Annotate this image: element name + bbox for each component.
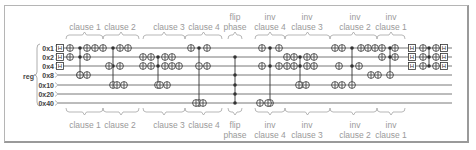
top-label-clause2: clause 2 — [104, 22, 136, 32]
qubit-label-0x8: 0x8 — [42, 72, 54, 79]
top-label-inv2: clause 2 — [339, 22, 371, 32]
top-label-clause1: clause 1 — [69, 22, 101, 32]
control-dot — [268, 64, 272, 68]
control-dot — [78, 55, 82, 59]
quantum-circuit-diagram: reg0x10x20x40x80x100x200x40clause 1claus… — [0, 0, 476, 150]
control-dot — [233, 92, 237, 96]
qubit-label-0x10: 0x10 — [38, 82, 54, 89]
control-dot — [156, 64, 160, 68]
bottom-label-inv3: clause 3 — [291, 130, 323, 140]
top-brace — [330, 32, 377, 39]
bottom-brace — [103, 108, 139, 115]
top-brace — [285, 32, 330, 39]
control-dot — [427, 64, 431, 68]
bottom-label-flip: phase — [223, 130, 246, 140]
qubit-label-0x40: 0x40 — [38, 100, 54, 107]
bottom-brace — [228, 108, 242, 115]
control-dot — [268, 46, 272, 50]
control-dot — [298, 64, 302, 68]
bottom-label-clause1: clause 1 — [69, 120, 101, 130]
qubit-input-marker — [55, 73, 58, 78]
control-dot — [298, 55, 302, 59]
top-label-inv4: clause 4 — [254, 22, 286, 32]
bottom-brace — [377, 108, 405, 115]
qubit-label-0x2: 0x2 — [42, 54, 54, 61]
top-label-flip: flip — [230, 12, 241, 22]
qubit-label-0x1: 0x1 — [42, 45, 54, 52]
bottom-label-inv1: inv — [386, 120, 398, 130]
qubit-input-marker — [55, 101, 58, 106]
bottom-label-flip: flip — [230, 120, 241, 130]
top-label-inv3: inv — [302, 12, 314, 22]
top-brace — [255, 32, 285, 39]
bottom-brace — [143, 108, 185, 115]
bottom-label-inv4: clause 4 — [254, 130, 286, 140]
top-label-inv1: inv — [386, 12, 398, 22]
hadamard-gate-label: H — [410, 54, 414, 60]
control-dot — [350, 64, 354, 68]
control-dot — [233, 55, 237, 59]
top-label-clause3: clause 3 — [153, 22, 185, 32]
qubit-input-marker — [55, 92, 58, 97]
register-label: reg — [23, 73, 34, 81]
hadamard-gate-label: H — [410, 63, 414, 69]
top-label-inv3: clause 3 — [291, 22, 323, 32]
qubit-label-0x20: 0x20 — [38, 91, 54, 98]
top-brace — [66, 32, 103, 39]
bottom-brace — [330, 108, 377, 115]
hadamard-gate-label: H — [58, 54, 62, 60]
top-brace — [143, 32, 185, 39]
top-label-inv2: inv — [350, 12, 362, 22]
bottom-label-inv1: clause 1 — [375, 130, 407, 140]
control-dot — [427, 46, 431, 50]
bottom-label-inv3: inv — [302, 120, 314, 130]
bottom-label-inv4: inv — [265, 120, 277, 130]
control-dot — [233, 83, 237, 87]
bottom-label-inv2: clause 2 — [339, 130, 371, 140]
top-label-inv4: inv — [265, 12, 277, 22]
control-dot — [78, 46, 82, 50]
bottom-brace — [185, 108, 222, 115]
bottom-brace — [255, 108, 285, 115]
hadamard-gate-label: H — [410, 45, 414, 51]
hadamard-gate-label: H — [58, 63, 62, 69]
top-brace — [103, 32, 139, 39]
top-label-clause4: clause 4 — [188, 22, 220, 32]
control-dot — [233, 101, 237, 105]
control-dot — [427, 55, 431, 59]
bottom-label-clause4: clause 4 — [188, 120, 220, 130]
control-dot — [111, 46, 115, 50]
control-dot — [350, 46, 354, 50]
bottom-label-inv2: inv — [350, 120, 362, 130]
control-dot — [233, 73, 237, 77]
top-brace — [228, 32, 242, 39]
hadamard-gate-label: H — [442, 54, 446, 60]
hadamard-gate-label: H — [58, 45, 62, 51]
bottom-brace — [66, 108, 103, 115]
top-label-flip: phase — [223, 22, 246, 32]
top-label-inv1: clause 1 — [375, 22, 407, 32]
hadamard-gate-label: H — [442, 45, 446, 51]
top-brace — [377, 32, 405, 39]
top-brace — [185, 32, 222, 39]
bottom-label-clause2: clause 2 — [104, 120, 136, 130]
qubit-label-0x4: 0x4 — [42, 63, 54, 70]
control-dot — [156, 55, 160, 59]
hadamard-gate-label: H — [442, 63, 446, 69]
bottom-label-clause3: clause 3 — [153, 120, 185, 130]
control-dot — [197, 46, 201, 50]
bottom-brace — [285, 108, 330, 115]
qubit-input-marker — [55, 83, 58, 88]
